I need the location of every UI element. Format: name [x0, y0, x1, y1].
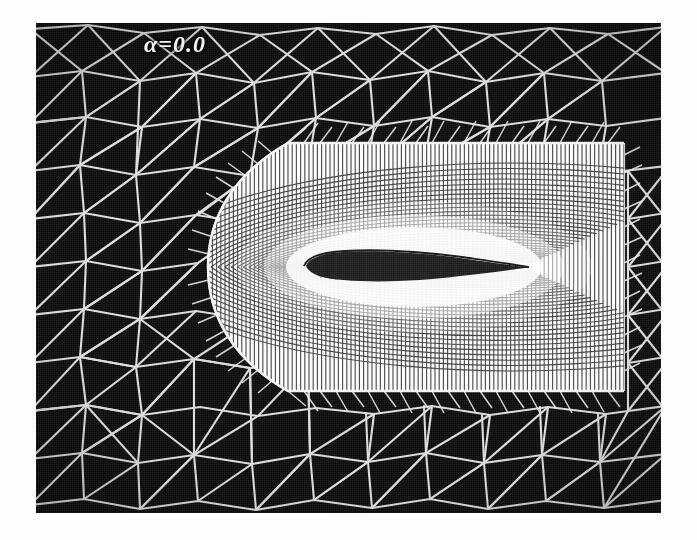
mesh-svg: [36, 23, 661, 513]
caption-area: [0, 516, 697, 540]
mesh-panel: α=0.0: [36, 23, 661, 513]
angle-of-attack-label: α=0.0: [144, 31, 206, 58]
mesh-figure: α=0.0: [0, 0, 697, 540]
